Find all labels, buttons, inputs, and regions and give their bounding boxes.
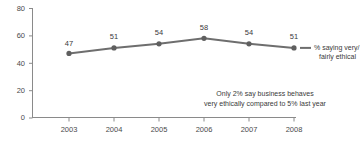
data-point-2006 (201, 36, 206, 41)
data-label-2004: 51 (102, 33, 126, 41)
y-tick-label-60: 60 (5, 32, 25, 40)
legend-label-line2: fairly ethical (319, 53, 356, 62)
data-point-2005 (156, 41, 161, 46)
y-tick-label-0: 0 (5, 114, 25, 122)
data-point-2008 (291, 45, 296, 50)
x-tick-label-2003: 2003 (49, 126, 89, 134)
data-point-2007 (246, 41, 251, 46)
series-line-pct-ethical (69, 38, 294, 53)
data-label-2003: 47 (57, 40, 81, 48)
data-label-2006: 58 (192, 24, 216, 32)
annotation-line2: very ethically compared to 5% last year (186, 99, 344, 108)
data-label-2005: 54 (147, 29, 171, 37)
y-tick-label-40: 40 (5, 60, 25, 68)
data-label-2007: 54 (237, 29, 261, 37)
x-tick-label-2008: 2008 (274, 126, 314, 134)
x-tick-label-2006: 2006 (184, 126, 224, 134)
y-tick-label-80: 80 (5, 5, 25, 13)
plot-area: 80 60 40 20 0 2003 2004 2005 2006 2007 2… (0, 0, 360, 150)
x-tick-label-2007: 2007 (229, 126, 269, 134)
x-tick-label-2005: 2005 (139, 126, 179, 134)
data-point-2004 (111, 45, 116, 50)
legend-label-line1: % saying very/ (314, 44, 360, 53)
annotation-line1: Only 2% say business behaves (186, 89, 344, 98)
line-chart: 80 60 40 20 0 2003 2004 2005 2006 2007 2… (0, 0, 360, 150)
x-tick-label-2004: 2004 (94, 126, 134, 134)
y-tick-label-20: 20 (5, 87, 25, 95)
data-point-2003 (66, 51, 71, 56)
data-label-2008: 51 (282, 33, 306, 41)
